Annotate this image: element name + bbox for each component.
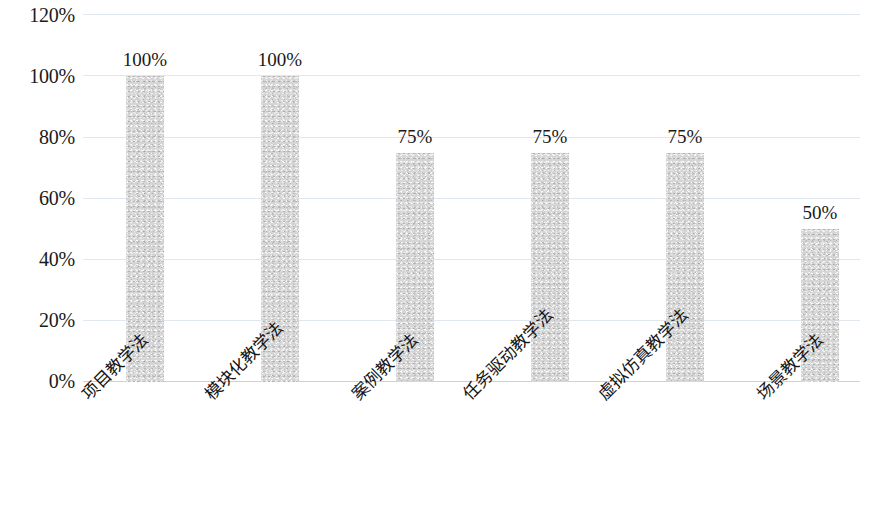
bar-value-label: 75% [499, 127, 601, 146]
bar-value-label: 50% [769, 203, 869, 222]
y-axis-tick-label: 20% [5, 310, 75, 330]
y-axis-tick-label: 60% [5, 188, 75, 208]
bar-chart: 120% 100% 80% 60% 40% 20% 0% 100% 100% 7… [0, 0, 869, 517]
bar-value-label: 75% [634, 127, 736, 146]
plot-area: 100% 100% 75% 75% 75% 50% [83, 14, 860, 382]
y-axis-tick-label: 80% [5, 127, 75, 147]
y-axis-tick-label: 40% [5, 249, 75, 269]
y-axis-tick-label: 120% [5, 5, 75, 25]
y-axis-tick-label: 0% [5, 371, 75, 391]
bars-layer: 100% 100% 75% 75% 75% 50% [83, 14, 860, 382]
bar[interactable] [666, 153, 704, 382]
bar-value-label: 100% [229, 50, 331, 69]
bar-value-label: 75% [364, 127, 466, 146]
bar-value-label: 100% [94, 50, 196, 69]
y-axis-tick-label: 100% [5, 66, 75, 86]
bar[interactable] [531, 153, 569, 382]
